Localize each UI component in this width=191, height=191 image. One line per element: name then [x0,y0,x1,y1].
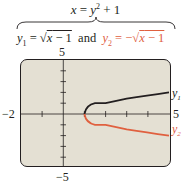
y2-curve [84,114,169,136]
y2-radicand: x − 1 [139,31,164,45]
equation-split: y1 = √x − 1 and y2 = −√x − 1 [17,31,164,48]
connector: and [78,31,96,45]
eq-rhs-exp: 2 [96,2,100,11]
xmin-label: −2 [2,107,15,122]
plot-area [21,60,171,167]
y1-radicand: x − 1 [47,31,72,45]
y2-equation: y2 = −√x − 1 [102,31,164,45]
brace-icon [16,16,176,30]
y2-sub: 2 [108,39,112,48]
y1-curve [84,92,169,114]
ymin-label: −5 [56,170,69,185]
graph-screen [20,59,171,167]
y1-curve-label: y1 [172,86,181,102]
y2-curve-label: y2 [172,122,181,138]
xmax-label: 5 [173,107,179,122]
y1-sub: 1 [23,39,27,48]
ymax-label: 5 [59,45,65,60]
